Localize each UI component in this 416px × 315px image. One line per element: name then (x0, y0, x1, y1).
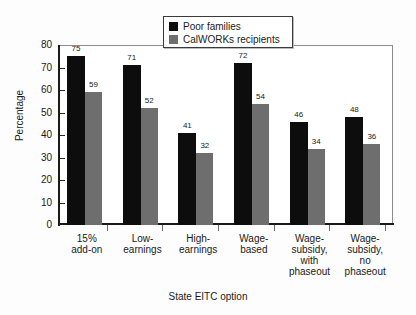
x-tick-mark (107, 225, 108, 231)
legend-swatch-icon (169, 35, 178, 44)
bar (85, 92, 102, 225)
bar-value-label: 72 (228, 52, 258, 60)
legend-item: Poor families (169, 20, 292, 32)
bar (141, 108, 158, 225)
plot-area (59, 45, 393, 225)
bar (308, 149, 325, 226)
bar-value-label: 36 (357, 133, 386, 141)
y-tick-label: 70 (6, 63, 52, 73)
bar-value-label: 46 (284, 111, 314, 119)
x-category-label: 15%add-on (55, 233, 119, 255)
x-category-label: Wage-based (222, 233, 286, 255)
x-category-label: Wage-subsidy,nophaseout (333, 233, 397, 277)
y-tick-mark (60, 158, 65, 159)
bar-value-label: 54 (246, 93, 275, 101)
y-tick-label: 0 (6, 220, 52, 230)
bar-value-label: 59 (79, 81, 108, 89)
y-tick-mark (60, 180, 65, 181)
bar (196, 153, 213, 225)
bar (363, 144, 380, 225)
x-tick-mark (329, 225, 330, 231)
y-tick-mark (60, 90, 65, 91)
bar-value-label: 32 (190, 142, 219, 150)
bar (123, 65, 141, 225)
legend-item-label: CalWORKs recipients (183, 34, 280, 45)
bar (234, 63, 252, 225)
x-axis-title: State EITC option (0, 291, 416, 302)
bar (252, 104, 269, 226)
x-category-label: High-earnings (166, 233, 230, 255)
legend-swatch-icon (169, 22, 178, 31)
x-category-label: Wage-subsidy,withphaseout (278, 233, 342, 277)
chart-page: 01020304050607080 Percentage 75597152413… (0, 0, 416, 315)
y-tick-label: 10 (6, 198, 52, 208)
x-category-label: Low-earnings (111, 233, 175, 255)
x-tick-mark (274, 225, 275, 231)
y-tick-mark (60, 203, 65, 204)
legend-item: CalWORKs recipients (169, 33, 292, 45)
x-tick-mark (162, 225, 163, 231)
y-tick-mark (60, 135, 65, 136)
bar-value-label: 52 (135, 97, 164, 105)
x-tick-mark (385, 225, 386, 231)
bar-value-label: 41 (172, 122, 202, 130)
bar-value-label: 48 (339, 106, 369, 114)
x-tick-mark (218, 225, 219, 231)
bar-value-label: 71 (117, 54, 147, 62)
y-tick-mark (60, 113, 65, 114)
y-tick-label: 20 (6, 175, 52, 185)
bar-value-label: 75 (61, 45, 91, 53)
y-axis-title: Percentage (14, 76, 25, 156)
legend-item-label: Poor families (183, 21, 241, 32)
bar-value-label: 34 (302, 138, 331, 146)
y-tick-label: 80 (6, 40, 52, 50)
chart-legend: Poor families CalWORKs recipients (163, 16, 293, 48)
y-tick-mark (60, 68, 65, 69)
